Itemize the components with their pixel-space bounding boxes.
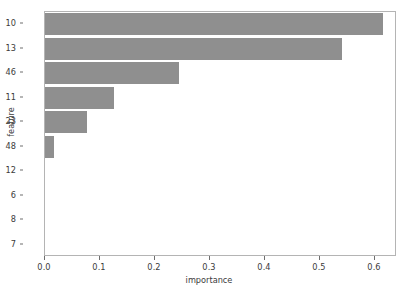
y-tick-mark xyxy=(20,96,24,97)
y-tick-mark xyxy=(20,219,24,220)
x-tick-mark xyxy=(209,256,210,260)
y-tick-label: 7 xyxy=(11,239,16,249)
y-tick-mark xyxy=(20,170,24,171)
x-axis-label: importance xyxy=(0,275,418,285)
bar xyxy=(45,87,114,109)
y-tick-label: 8 xyxy=(11,214,16,224)
bars-layer xyxy=(45,12,395,255)
x-tick-label: 0.5 xyxy=(312,262,325,272)
bar xyxy=(45,13,383,35)
x-tick-label: 0.2 xyxy=(147,262,160,272)
y-tick-label: 13 xyxy=(5,43,16,53)
y-tick-mark xyxy=(20,243,24,244)
y-tick-mark xyxy=(20,47,24,48)
x-tick-mark xyxy=(264,256,265,260)
y-tick-mark xyxy=(20,145,24,146)
plot-area xyxy=(44,11,396,256)
bar xyxy=(45,62,179,84)
x-tick-label: 0.4 xyxy=(257,262,270,272)
x-tick-mark xyxy=(319,256,320,260)
y-tick-mark xyxy=(20,23,24,24)
x-tick-mark xyxy=(44,256,45,260)
x-tick-mark xyxy=(374,256,375,260)
y-tick-mark xyxy=(20,121,24,122)
x-tick-mark xyxy=(99,256,100,260)
x-tick-label: 0.1 xyxy=(92,262,105,272)
bar xyxy=(45,136,54,158)
x-tick-mark xyxy=(154,256,155,260)
bar xyxy=(45,111,87,133)
y-tick-mark xyxy=(20,72,24,73)
x-tick-label: 0.0 xyxy=(37,262,50,272)
y-tick-label: 46 xyxy=(5,67,16,77)
y-tick-label: 12 xyxy=(5,165,16,175)
x-axis: importance 0.00.10.20.30.40.50.6 xyxy=(0,256,418,293)
y-tick-mark xyxy=(20,194,24,195)
y-tick-label: 6 xyxy=(11,190,16,200)
x-tick-label: 0.3 xyxy=(202,262,215,272)
x-tick-label: 0.6 xyxy=(367,262,380,272)
bar xyxy=(45,38,342,60)
y-axis-label: feature xyxy=(6,92,16,152)
bar-chart-figure: 10134611234812687 feature importance 0.0… xyxy=(0,0,418,293)
y-tick-label: 10 xyxy=(5,18,16,28)
